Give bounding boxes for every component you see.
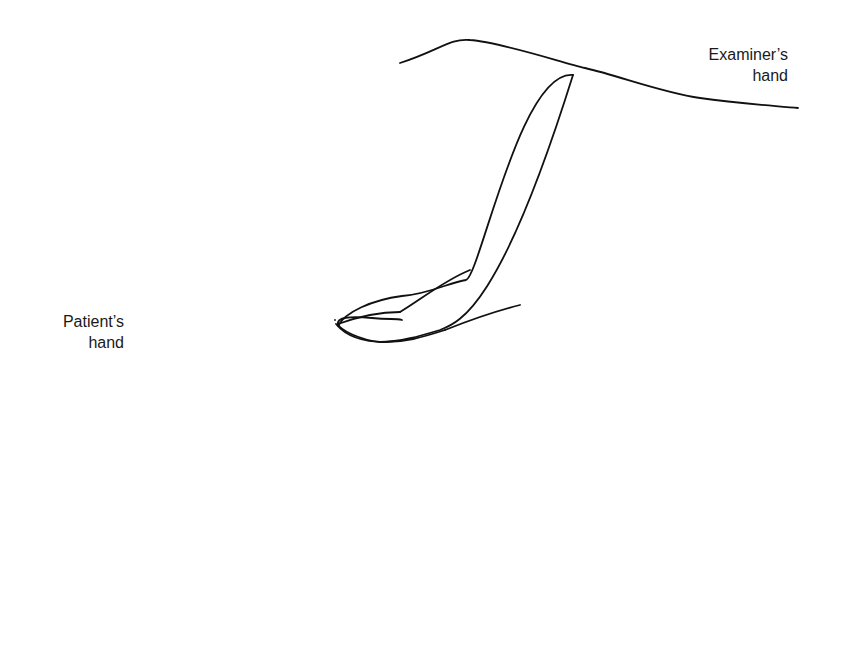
hoffmann-sign-figure — [0, 0, 842, 654]
examiner-label-line1: Examiner’s — [709, 44, 788, 65]
examiner-label-line2: hand — [709, 65, 788, 86]
examiner-hand-label: Examiner’s hand — [709, 44, 788, 86]
patient-label-line1: Patient’s — [0, 311, 124, 332]
hands-line-drawing — [0, 0, 842, 654]
patient-label-line2: hand — [0, 332, 124, 353]
patient-hand-label: Patient’s hand — [0, 311, 124, 353]
